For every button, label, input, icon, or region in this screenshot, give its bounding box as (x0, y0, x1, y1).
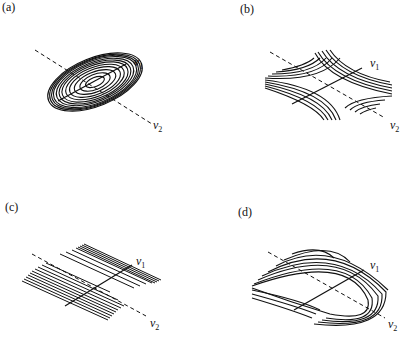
panel-b-v2-label: v2 (390, 118, 399, 134)
figure-canvas (0, 0, 408, 339)
panel-d-v1-axis (294, 270, 364, 310)
panel-b-v1-label: v1 (370, 56, 379, 72)
panel-d-label: (d) (238, 205, 252, 220)
panel-a-contours (40, 41, 151, 123)
panel-d-v2-label: v2 (388, 317, 397, 333)
panel-a-label: (a) (2, 0, 15, 15)
panel-d-contours (252, 250, 388, 326)
panel-d-v1-label: v1 (370, 258, 379, 274)
panel-a-v2-label: v2 (153, 118, 162, 134)
panel-c-label: (c) (5, 200, 18, 215)
panel-b-label: (b) (240, 2, 254, 17)
panel-c-v1-label: v1 (136, 254, 145, 270)
panel-c-v2-label: v2 (150, 316, 159, 332)
panel-a-v1-label: v1 (134, 55, 143, 71)
